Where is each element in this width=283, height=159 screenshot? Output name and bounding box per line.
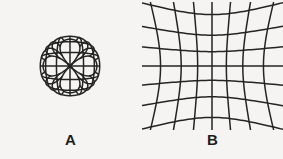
pincushion-grid-diagram [0,2,141,130]
barrel-grid-diagram [142,2,283,130]
distortion-figure-plate: A B [0,0,283,159]
figure-panel-b: B [142,0,283,159]
figure-caption-a: A [0,130,141,150]
figure-caption-b: B [142,130,283,150]
grid-line-group [142,2,283,130]
figure-panel-a: A [0,0,141,159]
grid-line-group [40,36,100,96]
